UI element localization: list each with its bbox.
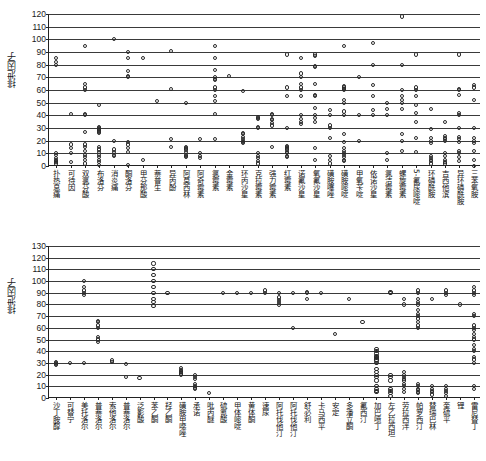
- data-point: [472, 332, 476, 336]
- y-tick-label: 50: [37, 98, 46, 107]
- data-point: [69, 112, 73, 116]
- data-point: [151, 291, 155, 295]
- data-point: [400, 107, 404, 111]
- data-point: [249, 291, 253, 295]
- y-tick-label: 60: [37, 86, 46, 95]
- x-category-label: 磺胺嘧啶: [340, 169, 348, 197]
- x-category-label: 克拉霉素: [254, 169, 262, 197]
- data-point: [444, 288, 448, 292]
- data-point: [151, 285, 155, 289]
- x-tick-mark: [112, 397, 113, 400]
- data-point: [270, 145, 274, 149]
- data-point: [299, 56, 303, 60]
- x-tick-mark: [315, 165, 316, 168]
- data-point: [69, 146, 73, 150]
- y-tick-label: 80: [37, 300, 46, 309]
- plot-frame-bottom: 0102030405060708090100110120130沙丁胺醇可替宁美托…: [48, 246, 480, 398]
- data-point: [213, 85, 217, 89]
- y-tick-label: 90: [37, 48, 46, 57]
- data-point: [83, 82, 87, 86]
- x-category-label: 普萘洛尔: [94, 401, 102, 429]
- data-point: [184, 145, 188, 149]
- data-point: [385, 113, 389, 117]
- data-point: [277, 291, 281, 295]
- data-point: [184, 101, 188, 105]
- data-point: [414, 111, 418, 115]
- data-point: [374, 367, 378, 371]
- y-tick-label: 20: [37, 370, 46, 379]
- y-tick-mark: [46, 281, 49, 282]
- y-tick-mark: [46, 90, 49, 91]
- y-tick-mark: [46, 316, 49, 317]
- x-tick-mark: [56, 397, 57, 400]
- data-point: [385, 151, 389, 155]
- x-tick-mark: [171, 165, 172, 168]
- data-point: [126, 163, 130, 167]
- data-point: [374, 347, 378, 351]
- x-category-label: 可待因: [67, 169, 75, 190]
- x-category-label: 甲芬那酸: [139, 169, 147, 197]
- y-tick-mark: [46, 14, 49, 15]
- data-point: [305, 290, 309, 294]
- y-tick-mark: [46, 386, 49, 387]
- x-tick-mark: [349, 397, 350, 400]
- data-point: [371, 113, 375, 117]
- y-tick-label: 10: [37, 149, 46, 158]
- data-point: [313, 106, 317, 110]
- x-tick-mark: [416, 165, 417, 168]
- x-category-label: 替瑞巴林: [428, 401, 436, 429]
- x-tick-mark: [223, 397, 224, 400]
- data-point: [443, 134, 447, 138]
- x-tick-mark: [404, 397, 405, 400]
- y-tick-label: 50: [37, 335, 46, 344]
- x-category-label: 氯洁霉素: [384, 169, 392, 197]
- data-point: [400, 132, 404, 136]
- data-point: [285, 126, 289, 130]
- data-point: [319, 291, 323, 295]
- data-point: [400, 88, 404, 92]
- data-point: [141, 56, 145, 60]
- x-category-label: 消炎痛: [110, 169, 118, 190]
- y-tick-mark: [46, 398, 49, 399]
- x-category-label: 磺胺噻唑: [326, 169, 334, 197]
- data-point: [457, 159, 461, 163]
- gridline: [49, 115, 480, 116]
- data-point: [443, 120, 447, 124]
- data-point: [374, 384, 378, 388]
- data-point: [472, 98, 476, 102]
- y-axis-title-top: 排泄因子: [4, 52, 17, 88]
- data-point: [263, 288, 267, 292]
- x-category-label: 卡马西平: [317, 401, 325, 429]
- x-tick-mark: [293, 397, 294, 400]
- data-point: [305, 297, 309, 301]
- x-tick-mark: [321, 397, 322, 400]
- x-category-label: 美托洛尔: [80, 401, 88, 429]
- x-tick-mark: [237, 397, 238, 400]
- x-category-label: 阿莫西林: [182, 169, 190, 197]
- x-tick-mark: [373, 165, 374, 168]
- x-category-label: 氯霉素: [211, 169, 219, 190]
- y-tick-mark: [46, 52, 49, 53]
- data-point: [347, 297, 351, 301]
- x-category-label: 左乙拉西坦: [387, 401, 395, 436]
- x-category-label: 布洛芬: [96, 169, 104, 190]
- data-point: [285, 144, 289, 148]
- gridline: [49, 281, 480, 282]
- y-tick-label: 0: [41, 394, 46, 403]
- y-tick-mark: [46, 103, 49, 104]
- data-point: [472, 83, 476, 87]
- data-point: [299, 71, 303, 75]
- data-point: [126, 50, 130, 54]
- x-tick-mark: [140, 397, 141, 400]
- y-axis-title-bottom: 排泄因子: [4, 278, 17, 314]
- x-category-label: 5-氟尿嘧啶: [412, 169, 420, 204]
- data-point: [277, 295, 281, 299]
- x-tick-mark: [98, 397, 99, 400]
- x-category-label: 索他洛尔: [108, 401, 116, 429]
- data-point: [371, 94, 375, 98]
- x-category-label: 阿奇霉素: [196, 169, 204, 197]
- x-tick-mark: [272, 165, 273, 168]
- gridline: [49, 128, 480, 129]
- x-category-label: 苯乙酮: [150, 401, 158, 422]
- data-point: [416, 308, 420, 312]
